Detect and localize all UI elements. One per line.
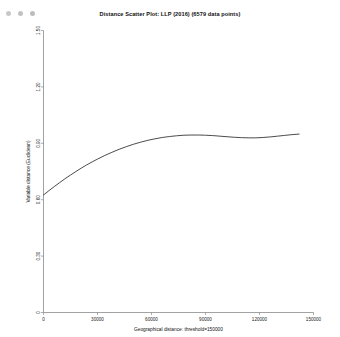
x-tick-label: 0: [42, 317, 45, 322]
y-axis-title: Variable distance (Euclidean): [26, 140, 31, 202]
y-tick-label: 0: [36, 311, 41, 314]
data-curve: [44, 134, 300, 195]
data-series-group: [44, 134, 300, 195]
x-tick-label: 60000: [145, 317, 158, 322]
y-tick-label: 0.60: [36, 195, 41, 204]
x-tick-label: 150000: [306, 317, 322, 322]
x-tick-label: 120000: [252, 317, 268, 322]
y-tick-label: 1.20: [36, 82, 41, 91]
x-axis-ticks: 0300006000090000120000150000: [42, 313, 321, 323]
chart-svg: 0300006000090000120000150000 00.300.600.…: [0, 0, 340, 337]
plot-area: 0300006000090000120000150000 00.300.600.…: [0, 0, 340, 337]
y-tick-label: 1.50: [36, 26, 41, 35]
y-tick-label: 0.30: [36, 251, 41, 260]
x-axis-title: Geographical distance: threshold=150000: [134, 327, 223, 332]
y-axis-ticks: 00.300.600.901.201.50: [36, 26, 44, 314]
y-tick-label: 0.90: [36, 138, 41, 147]
chart-window: Distance Scatter Plot: LLP (2016) (6579 …: [0, 0, 340, 337]
x-tick-label: 30000: [91, 317, 104, 322]
axes: [44, 31, 314, 313]
x-tick-label: 90000: [199, 317, 212, 322]
